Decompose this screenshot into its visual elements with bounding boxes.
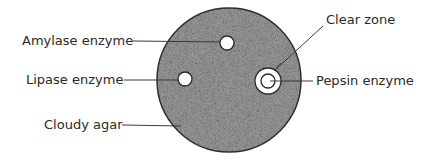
lipase-well	[178, 72, 192, 86]
clear-zone-label: Clear zone	[326, 12, 395, 28]
pepsin-enzyme-label: Pepsin enzyme	[316, 73, 414, 89]
cloudy-agar-label: Cloudy agar	[44, 117, 123, 133]
amylase-enzyme-label: Amylase enzyme	[22, 33, 133, 49]
amylase-well	[220, 36, 234, 50]
lipase-enzyme-label: Lipase enzyme	[26, 72, 123, 88]
